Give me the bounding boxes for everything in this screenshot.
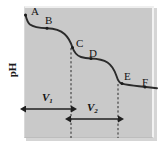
point-label-c: C xyxy=(76,38,83,49)
volume-label-v2-subscript: 2 xyxy=(94,107,98,115)
y-axis-label: pH xyxy=(1,55,23,85)
volume-label-v1: V1 xyxy=(42,92,53,103)
volume-label-v1-subscript: 1 xyxy=(49,97,53,105)
point-label-b: B xyxy=(45,15,52,26)
y-axis-label-text: pH xyxy=(6,63,18,78)
point-label-f: F xyxy=(142,77,148,88)
volume-label-v2: V2 xyxy=(87,102,98,113)
plot-panel xyxy=(24,6,154,138)
point-label-a: A xyxy=(31,6,39,17)
point-label-d: D xyxy=(89,48,97,59)
point-label-e: E xyxy=(124,71,131,82)
titration-curve-figure: pH xyxy=(0,0,159,149)
